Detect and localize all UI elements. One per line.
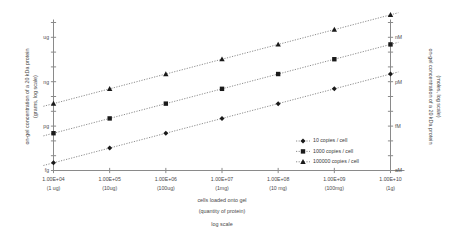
x-axis-tick-sublabel: (100ug) <box>157 185 175 191</box>
legend-label: 10 copies / cell <box>313 137 347 143</box>
data-point-square <box>332 57 336 61</box>
y-axis-right-tick-label: aM <box>395 167 402 173</box>
legend-item-2[interactable]: 1000 copies / cell <box>296 148 353 154</box>
y-axis-right-tick-label: nM <box>395 34 402 40</box>
x-axis-tick-label: 1.00E+09 <box>323 176 345 182</box>
data-point-square <box>220 87 224 91</box>
data-point-triangle <box>388 12 393 17</box>
data-point-square <box>388 42 392 46</box>
chart-container: fgpgngugaMfMpMnM1.00E+04(1 ug)1.00E+05(1… <box>0 0 455 235</box>
x-axis-tick-label: 1.00E+05 <box>98 176 120 182</box>
data-point-square <box>164 101 168 105</box>
data-point-diamond <box>332 86 337 91</box>
scatter-chart: fgpgngugaMfMpMnM1.00E+04(1 ug)1.00E+05(1… <box>0 0 455 235</box>
data-point-square <box>276 72 280 76</box>
x-axis-tick-label: 1.00E+06 <box>155 176 177 182</box>
data-point-diamond <box>51 160 56 165</box>
y-axis-left-tick-label: fg <box>45 167 49 173</box>
legend-label: 1000 copies / cell <box>313 148 353 154</box>
y-axis-left-tick-label: ug <box>43 34 49 40</box>
y-axis-right-title-line2: (moles, log scale) <box>436 75 442 117</box>
x-axis-tick-sublabel: (1g) <box>386 185 395 191</box>
data-point-triangle <box>219 56 224 61</box>
legend-item-3[interactable]: 100000 copies / cell <box>296 158 359 164</box>
x-axis-title-line2: (quantity of protein) <box>199 208 246 214</box>
x-axis-title-line3: log scale <box>211 221 232 227</box>
x-axis-title-line1: cells loaded onto gel <box>197 197 246 203</box>
data-point-square <box>107 116 111 120</box>
y-axis-right-title-line1: on-gel concentration of a 20 kDa protein <box>428 49 434 145</box>
legend-item-1[interactable]: 10 copies / cell <box>296 137 347 143</box>
data-point-triangle <box>51 101 56 106</box>
data-point-diamond <box>276 101 281 106</box>
x-axis-tick-sublabel: (1mg) <box>215 185 229 191</box>
y-axis-left-title-line1: on-gel concentration of a 20 kDa protein <box>24 49 30 145</box>
legend-marker-square <box>301 149 305 153</box>
x-axis-tick-label: 1.00E+10 <box>379 176 401 182</box>
y-axis-left-title-line2: (grams, log scale) <box>32 75 38 118</box>
x-axis-tick-label: 1.00E+04 <box>42 176 64 182</box>
data-point-diamond <box>107 146 112 151</box>
legend-label: 100000 copies / cell <box>313 158 359 164</box>
x-axis-tick-label: 1.00E+07 <box>211 176 233 182</box>
x-axis-tick-sublabel: (1 ug) <box>47 185 61 191</box>
data-point-diamond <box>220 116 225 121</box>
y-axis-right-tick-label: fM <box>395 123 401 129</box>
data-point-diamond <box>163 131 168 136</box>
legend-marker-diamond <box>301 139 306 144</box>
series-2 <box>43 42 398 136</box>
y-axis-left-tick-label: ng <box>43 79 49 85</box>
data-point-square <box>51 131 55 135</box>
x-axis-tick-sublabel: (10 mg) <box>269 185 287 191</box>
y-axis-right-tick-label: pM <box>395 79 402 85</box>
x-axis-tick-sublabel: (100mg) <box>325 185 345 191</box>
y-axis-left-tick-label: pg <box>43 123 49 129</box>
x-axis-tick-label: 1.00E+08 <box>267 176 289 182</box>
series-3 <box>43 12 398 106</box>
x-axis-tick-sublabel: (10ug) <box>102 185 117 191</box>
data-point-diamond <box>388 72 393 77</box>
